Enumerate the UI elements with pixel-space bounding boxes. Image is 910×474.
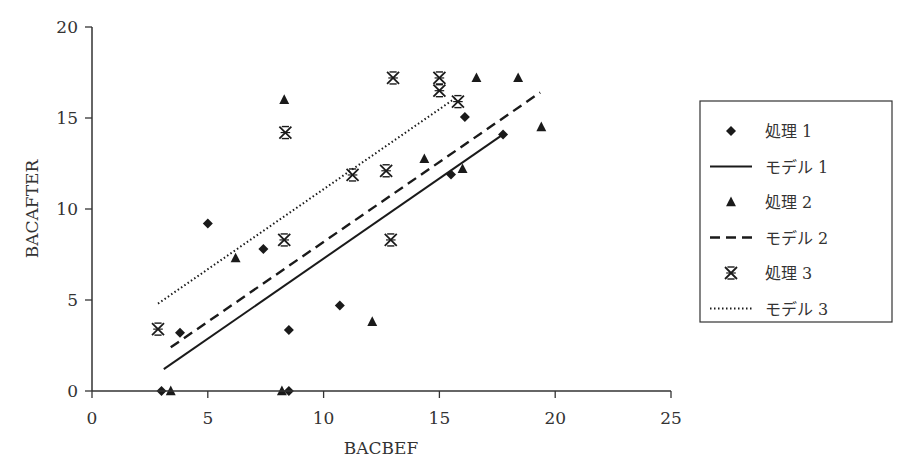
x-tick-label: 10 bbox=[313, 408, 335, 428]
y-tick-label: 0 bbox=[67, 381, 78, 401]
data-point bbox=[472, 72, 482, 82]
data-point bbox=[380, 165, 392, 177]
data-point bbox=[278, 234, 290, 246]
plot-area bbox=[152, 72, 546, 396]
data-point bbox=[279, 127, 291, 139]
series-1 bbox=[156, 112, 508, 396]
series-4 bbox=[171, 93, 540, 348]
regression-line bbox=[158, 98, 456, 304]
legend-label: モデル 3 bbox=[765, 300, 828, 319]
y-axis-label: BACAFTER bbox=[22, 159, 42, 259]
data-point bbox=[387, 72, 399, 84]
series-5 bbox=[152, 72, 464, 335]
series-6 bbox=[158, 98, 456, 304]
data-point bbox=[258, 244, 268, 254]
data-point bbox=[335, 300, 345, 310]
x-tick-label: 5 bbox=[202, 408, 213, 428]
y-tick-label: 20 bbox=[56, 17, 78, 37]
data-point bbox=[460, 112, 470, 122]
legend-label: 処理 3 bbox=[765, 264, 812, 283]
regression-line bbox=[171, 93, 540, 348]
data-point bbox=[284, 325, 294, 335]
axes: 0510152025 05101520 BACBEF BACAFTER bbox=[22, 17, 682, 458]
regression-line bbox=[164, 134, 503, 369]
data-point bbox=[433, 72, 445, 84]
data-point bbox=[231, 253, 241, 263]
x-tick-label: 25 bbox=[660, 408, 682, 428]
data-point bbox=[203, 219, 213, 229]
legend-label: モデル 2 bbox=[765, 229, 828, 248]
data-point bbox=[367, 316, 377, 326]
y-tick-label: 15 bbox=[56, 108, 78, 128]
data-point bbox=[175, 328, 185, 338]
data-point bbox=[279, 94, 289, 104]
data-point bbox=[433, 85, 445, 97]
data-point bbox=[513, 72, 523, 82]
series-3 bbox=[166, 72, 546, 395]
y-tick-label: 5 bbox=[67, 290, 78, 310]
data-point bbox=[419, 153, 429, 163]
data-point bbox=[536, 122, 546, 132]
y-ticks: 05101520 bbox=[56, 17, 92, 401]
x-tick-label: 20 bbox=[544, 408, 566, 428]
scatter-chart: 0510152025 05101520 BACBEF BACAFTER 処理 1… bbox=[0, 0, 910, 474]
series-2 bbox=[164, 134, 503, 369]
x-ticks: 0510152025 bbox=[87, 391, 682, 428]
legend: 処理 1モデル 1処理 2モデル 2処理 3モデル 3 bbox=[700, 101, 892, 322]
y-tick-label: 10 bbox=[56, 199, 78, 219]
legend-label: 処理 2 bbox=[765, 193, 812, 212]
data-point bbox=[452, 96, 464, 108]
data-point bbox=[152, 323, 164, 335]
x-axis-label: BACBEF bbox=[344, 438, 419, 458]
data-point bbox=[385, 234, 397, 246]
data-point bbox=[347, 169, 359, 181]
x-tick-label: 15 bbox=[429, 408, 451, 428]
x-tick-label: 0 bbox=[87, 408, 98, 428]
legend-label: モデル 1 bbox=[765, 158, 828, 177]
legend-label: 処理 1 bbox=[765, 122, 812, 141]
